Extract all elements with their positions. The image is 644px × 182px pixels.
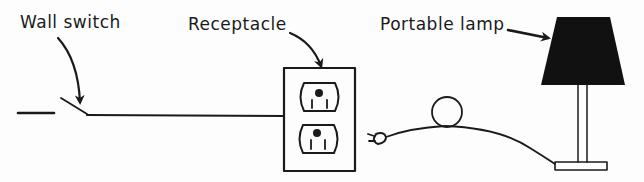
lamp-cord xyxy=(386,126,555,164)
outlet-top xyxy=(301,83,339,111)
wall-switch xyxy=(18,98,284,116)
portable-lamp-label: Portable lamp xyxy=(380,14,505,34)
switch-blade xyxy=(61,98,87,114)
ground-hole-icon xyxy=(313,129,321,137)
outlet-bottom xyxy=(300,125,338,153)
lamp-arrow-icon xyxy=(508,30,548,38)
cord-loop xyxy=(432,97,462,127)
wiring-diagram: Wall switch Receptacle Portable lamp xyxy=(0,0,644,182)
plug-icon xyxy=(368,133,386,144)
lamp-base xyxy=(555,162,607,170)
wall-switch-arrow-icon xyxy=(58,38,80,102)
wall-switch-label: Wall switch xyxy=(20,12,121,32)
ground-hole-icon xyxy=(315,89,323,97)
lamp-shade xyxy=(541,17,625,85)
diagram-svg: Wall switch Receptacle Portable lamp xyxy=(0,0,644,182)
receptacle-arrow-icon xyxy=(290,33,321,66)
receptacle-label: Receptacle xyxy=(188,14,287,34)
switched-wire xyxy=(87,115,284,116)
portable-lamp xyxy=(541,17,625,170)
outlet-face xyxy=(300,125,338,153)
receptacle xyxy=(284,68,355,171)
outlet-face xyxy=(301,83,339,111)
